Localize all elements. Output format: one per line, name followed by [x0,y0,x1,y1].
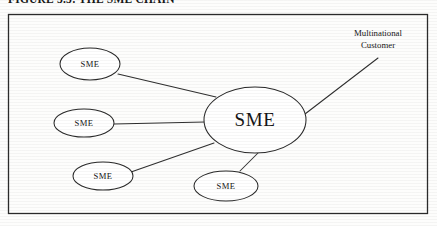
multinational-customer-label: Multinational Customer [354,28,402,50]
node-label: SME [94,171,113,181]
link-bottom-center-to-center [240,153,258,171]
node-sme-middle-left: SME [54,109,114,137]
node-label: SME [217,181,236,191]
link-center-to-multinational [305,58,378,114]
link-top-left-to-center [118,74,216,97]
figure-container: FIGURE 3.3: THE SME CHAIN SME SME SME SM… [0,0,437,226]
callout-line-1: Multinational [354,28,402,38]
node-label: SME [235,109,276,130]
node-sme-top-left: SME [60,48,120,80]
node-sme-bottom-center: SME [194,171,258,201]
sme-chain-diagram: SME SME SME SME SME Multinational Custom… [0,0,437,226]
link-bottom-left-to-center [131,143,214,172]
link-middle-left-to-center [114,122,205,124]
node-label: SME [75,118,94,128]
node-sme-central: SME [204,87,306,153]
node-sme-bottom-left: SME [73,162,133,190]
callout-line-2: Customer [361,40,395,50]
node-label: SME [81,59,100,69]
